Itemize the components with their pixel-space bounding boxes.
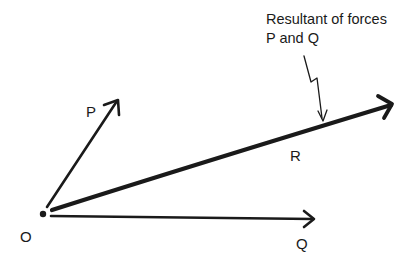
annotation-line-2: P and Q <box>266 29 387 48</box>
vector-r-label: R <box>290 148 301 163</box>
origin-label: O <box>20 229 32 244</box>
annotation-caption: Resultant of forces P and Q <box>266 10 387 48</box>
vector-q-label: Q <box>296 236 308 251</box>
force-diagram: O P Q R Resultant of forces P and Q <box>0 0 417 262</box>
vector-r-arrow <box>52 96 392 210</box>
annotation-line-1: Resultant of forces <box>266 10 387 29</box>
origin-point <box>40 211 46 217</box>
annotation-pointer-arrow <box>304 56 327 121</box>
vector-q-arrow <box>51 211 314 227</box>
vector-p-label: P <box>86 104 96 119</box>
